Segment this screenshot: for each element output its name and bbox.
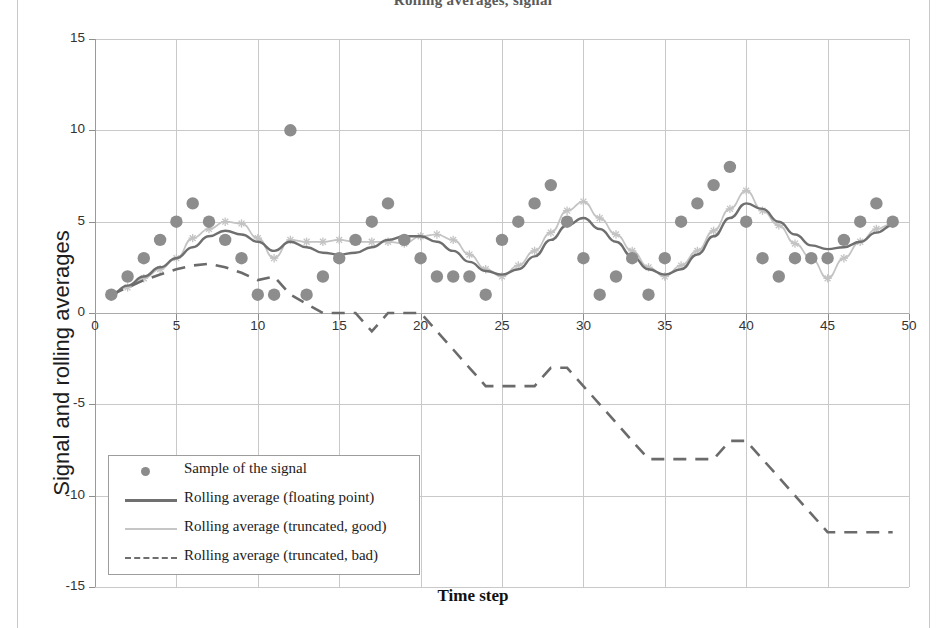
legend-key-bad bbox=[123, 543, 179, 572]
star-marker-icon bbox=[433, 230, 441, 238]
scatter-point bbox=[317, 270, 329, 282]
scatter-point bbox=[528, 197, 540, 209]
star-marker-icon bbox=[742, 186, 750, 194]
scatter-point bbox=[854, 216, 866, 228]
scatter-point bbox=[121, 270, 133, 282]
scatter-point bbox=[235, 252, 247, 264]
legend-item-good: Rolling average (truncated, good) bbox=[109, 514, 419, 543]
scatter-point bbox=[707, 179, 719, 191]
scatter-point bbox=[431, 270, 443, 282]
legend-key-sample bbox=[123, 456, 179, 485]
scatter-point bbox=[105, 289, 117, 301]
star-marker-icon bbox=[840, 254, 848, 262]
scatter-point bbox=[154, 234, 166, 246]
star-marker-icon bbox=[596, 214, 604, 222]
scatter-point bbox=[626, 252, 638, 264]
star-marker-icon bbox=[221, 218, 229, 226]
star-marker-icon bbox=[237, 219, 245, 227]
scatter-point bbox=[138, 252, 150, 264]
scatter-point bbox=[545, 179, 557, 191]
scatter-point bbox=[349, 234, 361, 246]
scatter-point bbox=[512, 216, 524, 228]
legend-label-floating: Rolling average (floating point) bbox=[184, 489, 374, 506]
scatter-point bbox=[675, 216, 687, 228]
star-marker-icon bbox=[823, 274, 831, 282]
scatter-point bbox=[382, 197, 394, 209]
star-marker-icon bbox=[579, 197, 587, 205]
legend-item-bad: Rolling average (truncated, bad) bbox=[109, 543, 419, 572]
legend-item-sample: Sample of the signal bbox=[109, 456, 419, 485]
scatter-point bbox=[594, 289, 606, 301]
scatter-point bbox=[219, 234, 231, 246]
scatter-point bbox=[659, 252, 671, 264]
scatter-point bbox=[333, 252, 345, 264]
scatter-point bbox=[170, 216, 182, 228]
scatter-point bbox=[187, 197, 199, 209]
star-marker-icon bbox=[563, 207, 571, 215]
scatter-point bbox=[447, 270, 459, 282]
scatter-point bbox=[805, 252, 817, 264]
scatter-point bbox=[773, 270, 785, 282]
scatter-point bbox=[414, 252, 426, 264]
star-marker-icon bbox=[319, 238, 327, 246]
scatter-point bbox=[252, 289, 264, 301]
chart-legend: Sample of the signal Rolling average (fl… bbox=[108, 455, 420, 575]
star-marker-icon bbox=[270, 254, 278, 262]
scatter-point bbox=[691, 197, 703, 209]
star-marker-icon bbox=[302, 238, 310, 246]
scatter-point bbox=[756, 252, 768, 264]
star-marker-icon bbox=[465, 250, 473, 258]
scatter-point bbox=[789, 252, 801, 264]
scatter-point bbox=[838, 234, 850, 246]
star-marker-icon bbox=[368, 238, 376, 246]
scatter-point bbox=[740, 216, 752, 228]
scanned-page: Rolling averages, signal 151050-5-10-15 … bbox=[0, 0, 946, 628]
legend-key-good bbox=[123, 514, 179, 543]
dashed-line-icon bbox=[125, 557, 177, 559]
legend-label-good: Rolling average (truncated, good) bbox=[184, 518, 386, 535]
solid-line-icon bbox=[125, 499, 177, 502]
scatter-point bbox=[398, 234, 410, 246]
legend-item-floating: Rolling average (floating point) bbox=[109, 485, 419, 514]
scatter-point bbox=[887, 216, 899, 228]
scatter-point bbox=[284, 124, 296, 136]
scatter-point bbox=[610, 270, 622, 282]
star-marker-icon bbox=[449, 236, 457, 244]
star-marker-icon bbox=[189, 234, 197, 242]
legend-label-sample: Sample of the signal bbox=[184, 460, 307, 477]
light-line-icon bbox=[125, 528, 177, 530]
scatter-point bbox=[366, 216, 378, 228]
scatter-point bbox=[724, 161, 736, 173]
circle-marker-icon bbox=[141, 467, 150, 476]
scatter-point bbox=[203, 216, 215, 228]
scatter-point bbox=[642, 289, 654, 301]
scatter-point bbox=[577, 252, 589, 264]
scatter-point bbox=[496, 234, 508, 246]
star-marker-icon bbox=[547, 228, 555, 236]
legend-label-bad: Rolling average (truncated, bad) bbox=[184, 547, 378, 564]
star-marker-icon bbox=[726, 205, 734, 213]
scatter-point bbox=[463, 270, 475, 282]
scatter-point bbox=[300, 289, 312, 301]
scatter-point bbox=[870, 197, 882, 209]
star-marker-icon bbox=[791, 239, 799, 247]
scatter-point bbox=[480, 289, 492, 301]
star-marker-icon bbox=[612, 230, 620, 238]
scatter-point bbox=[821, 252, 833, 264]
scatter-point bbox=[268, 289, 280, 301]
legend-key-floating bbox=[123, 485, 179, 514]
star-marker-icon bbox=[335, 236, 343, 244]
scatter-point bbox=[561, 216, 573, 228]
